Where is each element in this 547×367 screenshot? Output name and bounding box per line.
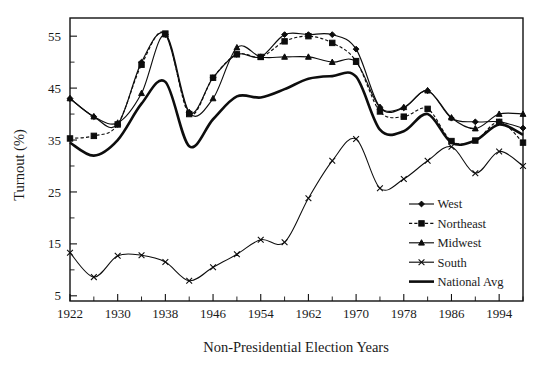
- x-tick-label: 1962: [295, 306, 321, 321]
- marker-square: [473, 138, 478, 143]
- legend-label: National Avg: [438, 275, 505, 289]
- x-tick-label: 1954: [248, 306, 275, 321]
- turnout-line-chart: 51525354555 1922193019381946195419621970…: [0, 0, 547, 367]
- marker-square: [496, 119, 501, 124]
- marker-square: [520, 140, 525, 145]
- marker-square: [306, 33, 311, 38]
- x-tick-label: 1922: [57, 306, 83, 321]
- marker-square: [234, 52, 239, 57]
- marker-square: [419, 221, 424, 226]
- marker-square: [330, 40, 335, 45]
- marker-square: [282, 39, 287, 44]
- legend-label: South: [438, 256, 468, 270]
- x-tick-label: 1938: [152, 306, 178, 321]
- x-tick-label: 1978: [391, 306, 417, 321]
- x-axis-title: Non-Presidential Election Years: [203, 339, 389, 355]
- y-tick-label: 15: [48, 236, 61, 251]
- marker-square: [91, 133, 96, 138]
- y-tick-label: 25: [48, 185, 61, 200]
- x-tick-label: 1930: [105, 306, 131, 321]
- legend-label: Northeast: [438, 217, 487, 231]
- x-tick-label: 1946: [200, 306, 227, 321]
- x-tick-label: 1994: [486, 306, 513, 321]
- marker-square: [401, 114, 406, 119]
- marker-square: [449, 138, 454, 143]
- y-tick-label: 5: [55, 288, 62, 303]
- marker-square: [67, 136, 72, 141]
- marker-square: [210, 75, 215, 80]
- y-axis-title: Turnout (%): [11, 129, 28, 201]
- legend-label: Midwest: [438, 236, 482, 250]
- marker-square: [139, 62, 144, 67]
- x-tick-label: 1986: [438, 306, 465, 321]
- x-tick-label: 1970: [343, 306, 369, 321]
- y-tick-label: 35: [48, 133, 61, 148]
- marker-square: [425, 106, 430, 111]
- y-tick-label: 45: [48, 81, 61, 96]
- y-tick-label: 55: [48, 29, 61, 44]
- legend-label: West: [438, 197, 463, 211]
- chart-figure: 51525354555 1922193019381946195419621970…: [0, 0, 547, 367]
